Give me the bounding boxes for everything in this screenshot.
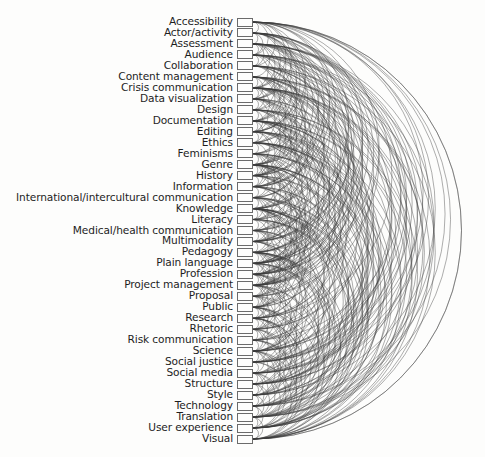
node-box xyxy=(237,171,253,180)
node-box xyxy=(237,369,253,378)
node-label: History xyxy=(196,170,233,181)
node-box xyxy=(237,182,253,191)
node-box xyxy=(237,105,253,114)
node-box xyxy=(237,39,253,48)
node-box xyxy=(237,358,253,367)
node-box xyxy=(237,138,253,147)
node-box xyxy=(237,303,253,312)
node-box xyxy=(237,424,253,433)
node-box xyxy=(237,380,253,389)
node-box xyxy=(237,204,253,213)
node-box xyxy=(237,259,253,268)
node-box xyxy=(237,292,253,301)
arc-edge-paths xyxy=(253,22,462,439)
node-box xyxy=(237,160,253,169)
node-box xyxy=(237,149,253,158)
node-label: Literacy xyxy=(191,214,233,225)
node-box xyxy=(237,94,253,103)
node-box xyxy=(237,193,253,202)
node-box xyxy=(237,50,253,59)
node-label: Knowledge xyxy=(176,203,233,214)
node-box xyxy=(237,61,253,70)
node-box xyxy=(237,435,253,444)
node-label: International/intercultural communicatio… xyxy=(16,192,233,203)
node-box xyxy=(237,270,253,279)
node-box xyxy=(237,72,253,81)
node-label: Information xyxy=(173,181,233,192)
node-box xyxy=(237,28,253,37)
node-box xyxy=(237,281,253,290)
node-label: Visual xyxy=(202,433,233,444)
node-box xyxy=(237,237,253,246)
node-box xyxy=(237,18,253,27)
node-box xyxy=(237,248,253,257)
node-box xyxy=(237,226,253,235)
arc-diagram: AccessibilityActor/activityAssessmentAud… xyxy=(0,0,485,457)
node-box xyxy=(237,336,253,345)
node-box xyxy=(237,215,253,224)
node-box xyxy=(237,127,253,136)
node-box xyxy=(237,413,253,422)
node-box xyxy=(237,325,253,334)
node-label: Genre xyxy=(201,159,233,170)
node-box xyxy=(237,116,253,125)
node-box xyxy=(237,391,253,400)
node-box xyxy=(237,347,253,356)
node-box xyxy=(237,83,253,92)
node-box xyxy=(237,314,253,323)
node-box xyxy=(237,402,253,411)
